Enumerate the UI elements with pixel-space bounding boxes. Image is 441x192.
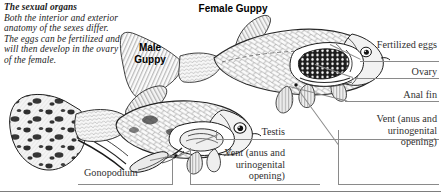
callout-vent-male: Vent (anus and urinogenital opening) xyxy=(200,147,285,182)
leader-rule-vent-male-bottom xyxy=(190,184,320,185)
callout-ovary: Ovary xyxy=(371,66,437,78)
leader-rule-fertilized-eggs xyxy=(360,61,439,62)
label-female-guppy: Female Guppy xyxy=(196,3,270,15)
callout-fertilized-eggs: Fertilized eggs xyxy=(371,39,437,51)
leader-rule-ovary xyxy=(352,78,439,79)
caption-title: The sexual organs xyxy=(4,2,122,13)
callout-gonopodium: Gonopodium xyxy=(84,167,176,179)
callout-vent-female: Vent (anus and urinogenital opening) xyxy=(357,113,437,148)
figure-canvas: The sexual organs Both the interior and … xyxy=(0,0,441,192)
leader-rule-gonopodium-bottom xyxy=(78,184,173,185)
label-male-guppy: Male Guppy xyxy=(122,42,178,65)
callout-anal-fin: Anal fin xyxy=(371,89,437,101)
callout-testis: Testis xyxy=(222,126,285,138)
leader-rule-anal-fin xyxy=(345,101,439,102)
leader-rule-vent-male-vertical xyxy=(190,148,191,184)
figure-caption: The sexual organs Both the interior and … xyxy=(4,2,122,66)
caption-body: Both the interior and exterior anatomy o… xyxy=(4,13,122,66)
leader-rule-vent-female-bottom xyxy=(338,184,439,185)
